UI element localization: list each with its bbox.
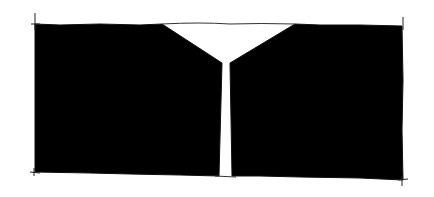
notched-block-diagram xyxy=(0,0,434,197)
right-block xyxy=(230,24,403,180)
left-block xyxy=(35,24,222,176)
top-edge-line xyxy=(162,23,295,24)
